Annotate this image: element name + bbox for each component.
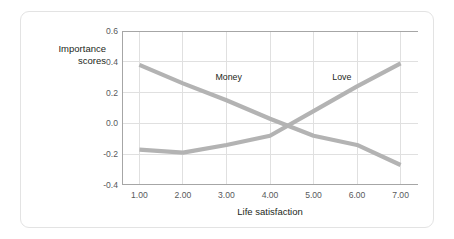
series-label-love: Love [332, 72, 351, 82]
y-tick-label: 0.0 [90, 118, 118, 128]
y-tick-label: 0.6 [90, 26, 118, 36]
x-tick-label: 5.00 [294, 190, 334, 200]
x-axis-tick-labels: 1.002.003.004.005.006.007.00 [122, 190, 418, 204]
chart-figure: Importance scores 0.60.40.20.0-0.2-0.4 M… [0, 0, 454, 239]
x-tick-label: 6.00 [337, 190, 377, 200]
y-tick-label: 0.2 [90, 88, 118, 98]
gridlines [122, 31, 418, 185]
x-tick-label: 4.00 [250, 190, 290, 200]
series-label-money: Money [215, 72, 241, 82]
x-tick-label: 2.00 [163, 190, 203, 200]
plot-svg [122, 31, 418, 185]
x-tick-label: 1.00 [119, 190, 159, 200]
y-tick-label: 0.4 [90, 57, 118, 67]
y-tick-label: -0.4 [90, 180, 118, 190]
x-tick-label: 3.00 [206, 190, 246, 200]
x-tick-label: 7.00 [381, 190, 421, 200]
y-axis-tick-labels: 0.60.40.20.0-0.2-0.4 [88, 31, 118, 185]
plot-area: MoneyLove [122, 31, 418, 185]
y-tick-label: -0.2 [90, 149, 118, 159]
x-axis-title: Life satisfaction [122, 206, 418, 217]
